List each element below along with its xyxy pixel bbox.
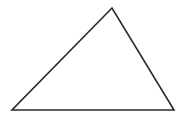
diagram-canvas xyxy=(0,0,186,119)
triangle-shape xyxy=(12,8,174,110)
